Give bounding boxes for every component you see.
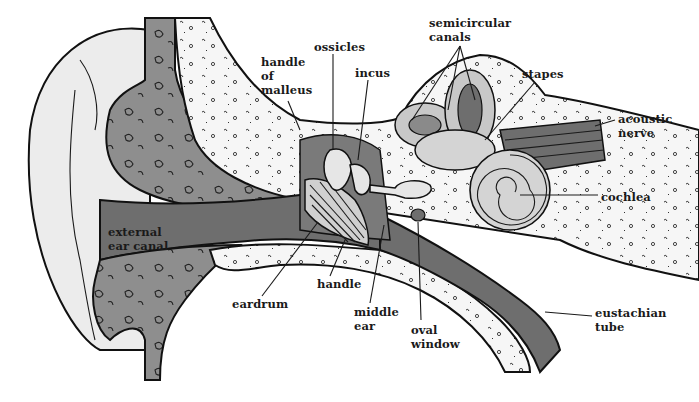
label-eustachian-tube: eustachian tube bbox=[595, 306, 666, 334]
eustachian-tube bbox=[380, 215, 560, 372]
label-acoustic-nerve: acoustic nerve bbox=[618, 112, 672, 140]
ear-anatomy-diagram bbox=[0, 0, 699, 402]
label-ossicles: ossicles bbox=[314, 40, 365, 54]
cochlea bbox=[470, 150, 550, 230]
label-eardrum: eardrum bbox=[232, 297, 288, 311]
label-handle-of-malleus: handle of malleus bbox=[261, 55, 312, 97]
label-oval-window: oval window bbox=[411, 323, 460, 351]
label-semicircular-canals: semicircular canals bbox=[429, 16, 511, 44]
label-cochlea: cochlea bbox=[601, 190, 651, 204]
label-external-ear-canal: external ear canal bbox=[108, 225, 168, 253]
label-handle: handle bbox=[317, 277, 362, 291]
oval-window bbox=[411, 209, 425, 221]
label-stapes: stapes bbox=[522, 67, 564, 81]
label-middle-ear: middle ear bbox=[354, 305, 399, 333]
label-incus: incus bbox=[355, 66, 390, 80]
